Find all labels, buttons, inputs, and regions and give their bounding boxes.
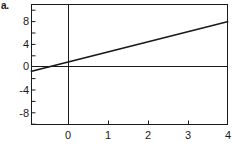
figure-panel: a. 8 4 0 -4 -8 0 1 2 3 4 [0, 0, 232, 146]
plot-area [0, 0, 232, 146]
